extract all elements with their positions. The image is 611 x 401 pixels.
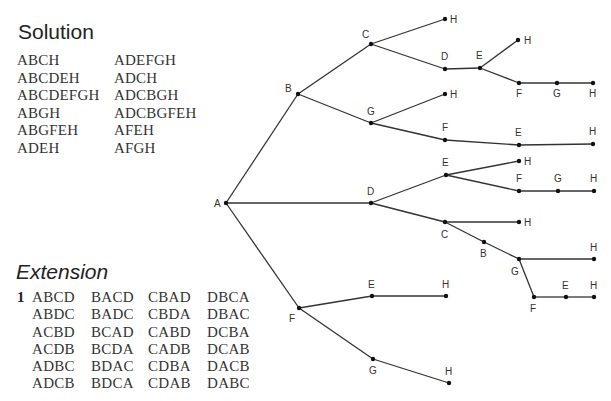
tree-node-label: C [362,29,369,40]
tree-node-label: H [590,280,597,291]
tree-edge [373,359,449,383]
tree-edge [446,175,519,191]
tree-node-dot [443,220,447,224]
tree-edge [371,44,445,69]
tree-edge [445,140,519,145]
tree-node-dot [564,295,568,299]
tree-node-label: G [554,173,562,184]
tree-node-dot [556,189,560,193]
tree-node-label: G [367,106,375,117]
tree-node-label: H [450,14,457,25]
tree-node-dot [296,92,300,96]
tree-node-dot [591,142,595,146]
tree-node-dot [370,294,374,298]
tree-edge [519,144,593,145]
tree-node-dot [517,159,521,163]
tree-node-label: D [441,51,448,62]
tree-node-label: G [553,88,561,99]
tree-diagram: ABCHDEHFGHGHFEHDEHFGHCHBGHFEHFEHGH [0,0,611,401]
tree-node-dot [592,257,596,261]
tree-node-dot [516,38,520,42]
tree-edge [371,123,445,140]
tree-edge [480,40,518,68]
tree-node-dot [555,81,559,85]
tree-node-label: H [590,242,597,253]
tree-node-dot [517,189,521,193]
tree-node-label: E [515,127,522,138]
tree-edge [298,94,371,123]
tree-node-dot [369,42,373,46]
tree-node-label: E [442,157,449,168]
tree-node-dot [447,381,451,385]
tree-edge [226,203,299,308]
tree-node-dot [371,357,375,361]
tree-node-dot [591,81,595,85]
tree-node-dot [443,92,447,96]
tree-node-label: H [589,88,596,99]
tree-edge [298,44,371,94]
tree-edge [371,19,445,44]
tree-edge [480,68,519,83]
tree-edge [445,222,484,242]
tree-node-label: H [445,366,452,377]
tree-node-dot [297,306,301,310]
tree-node-dot [444,294,448,298]
tree-node-label: H [442,279,449,290]
tree-node-label: C [441,229,448,240]
tree-node-dot [517,143,521,147]
tree-node-dot [532,295,536,299]
tree-edge [299,296,372,308]
tree-node-label: E [562,280,569,291]
tree-node-label: D [367,186,374,197]
tree-node-dot [478,66,482,70]
tree-node-label: E [368,279,375,290]
tree-node-dot [517,81,521,85]
tree-node-dot [517,220,521,224]
tree-edge [371,94,445,123]
tree-node-dot [592,295,596,299]
tree-node-label: H [524,217,531,228]
tree-node-dot [444,173,448,177]
tree-edge [446,161,519,175]
tree-node-dot [369,201,373,205]
tree-node-dot [592,189,596,193]
tree-node-dot [369,121,373,125]
tree-node-label: F [516,88,522,99]
tree-node-label: H [589,126,596,137]
tree-node-label: F [516,173,522,184]
tree-node-dot [443,138,447,142]
tree-node-label: F [442,122,448,133]
tree-node-dot [482,240,486,244]
tree-node-label: F [289,313,295,324]
tree-node-label: G [369,365,377,376]
tree-node-label: H [524,156,531,167]
tree-node-label: A [214,198,221,209]
tree-edge [371,175,446,203]
tree-edge [299,308,373,359]
tree-node-label: H [450,89,457,100]
tree-node-label: H [590,173,597,184]
tree-edge [371,203,445,222]
tree-node-label: H [524,35,531,46]
tree-node-label: E [476,50,483,61]
tree-edge [519,259,534,297]
tree-node-label: G [511,266,519,277]
tree-node-label: F [530,303,536,314]
tree-edge [445,68,480,69]
tree-node-dot [443,17,447,21]
tree-node-label: B [480,248,487,259]
tree-node-dot [224,201,228,205]
tree-node-dot [443,67,447,71]
tree-edge [484,242,519,259]
tree-edge [226,94,298,203]
tree-node-label: B [285,83,292,94]
tree-node-dot [517,257,521,261]
